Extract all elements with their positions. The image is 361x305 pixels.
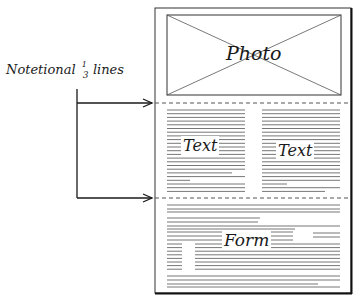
annotation-label: Notetional 1 3 lines	[6, 62, 124, 78]
text-right-label: Text	[276, 141, 314, 160]
form-label: Form	[222, 230, 271, 250]
annotation-arrows	[77, 89, 152, 202]
text-left-label: Text	[181, 136, 219, 155]
annotation-text: Notetional	[6, 62, 76, 77]
annotation-text-suffix: lines	[93, 62, 124, 77]
photo-label: Photo	[226, 42, 282, 64]
fraction: 1 3	[80, 64, 89, 78]
fraction-denominator: 3	[83, 70, 89, 80]
fraction-numerator: 1	[82, 60, 87, 69]
